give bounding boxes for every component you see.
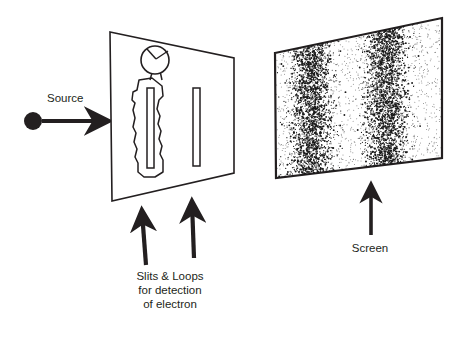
slits-loops-caption: Slits & Loops for detection of electron (136, 270, 203, 310)
screen-label: Screen (352, 242, 388, 254)
filled-circle-icon (24, 112, 42, 130)
gauge-icon (141, 46, 169, 74)
right-slit (193, 88, 200, 166)
source-label: Source (47, 92, 83, 104)
slit-panel-outline (110, 32, 234, 201)
caption-line-1: Slits & Loops (136, 270, 203, 282)
slit-panel-group (110, 32, 234, 201)
left-slit (147, 88, 154, 168)
caption-line-3: of electron (143, 298, 197, 310)
caption-line-2: for detection (138, 284, 201, 296)
double-slit-diagram: Source Slits & Loops for detection of el… (0, 0, 467, 337)
slit-arrow-right-icon (192, 203, 194, 258)
figure-root: Source Slits & Loops for detection of el… (0, 0, 467, 337)
